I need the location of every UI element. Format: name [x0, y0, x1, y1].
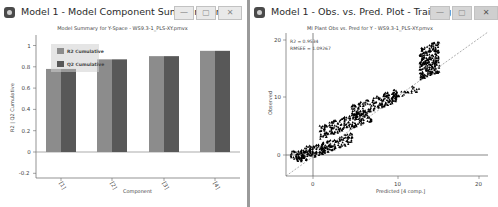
bar-r2-2	[97, 59, 112, 152]
svg-text:0.2: 0.2	[22, 128, 31, 134]
y-axis-title: R2 | Q2 Cumulative	[9, 83, 16, 132]
legend-label-r2: R2 Cumulative	[67, 49, 104, 54]
x-axis-ticks: 0 10 20	[311, 176, 482, 187]
svg-text:20: 20	[274, 37, 281, 43]
x-axis-title: Component	[123, 188, 152, 195]
svg-text:[3]: [3]	[161, 181, 170, 191]
svg-text:[4]: [4]	[212, 181, 221, 191]
svg-text:0: 0	[27, 149, 31, 155]
legend-swatch-q2	[57, 61, 64, 67]
x-axis-title: Predicted [4 comp.]	[376, 188, 425, 195]
bar-r2-1	[46, 69, 61, 152]
bar-r2-4	[200, 51, 215, 152]
bar-q2-2	[112, 59, 127, 152]
svg-text:0.4: 0.4	[22, 106, 31, 112]
model-component-summary-window: Model 1 - Model Component Summary for Y-…	[0, 0, 245, 207]
y-axis-ticks: 10.80.60.40.20-0.2	[19, 43, 36, 177]
scatter-plot[interactable]: 20 10 0 0 10 20 R2 = 0.9534 RMSEE = 1.09…	[250, 0, 490, 207]
legend-swatch-r2	[57, 48, 64, 54]
svg-text:10: 10	[394, 181, 401, 187]
y-axis-ticks: 20 10 0	[274, 37, 286, 158]
data-points	[290, 41, 441, 163]
svg-text:-0.2: -0.2	[19, 170, 30, 176]
bar-q2-3	[164, 56, 179, 152]
svg-text:[1]: [1]	[58, 181, 67, 191]
bar-q2-1	[61, 69, 76, 152]
rmsee-annotation: RMSEE = 1.09267	[290, 46, 331, 51]
svg-text:0: 0	[277, 152, 281, 158]
svg-text:20: 20	[475, 181, 482, 187]
bar-chart[interactable]: 10.80.60.40.20-0.2 [1][2][3][4] R2 Cumul…	[0, 0, 245, 207]
bar-r2-3	[149, 56, 164, 152]
y-axis-title: Observed	[267, 91, 273, 115]
svg-text:0.8: 0.8	[22, 64, 31, 70]
svg-text:1: 1	[27, 43, 31, 49]
svg-text:[2]: [2]	[109, 181, 118, 191]
svg-text:10: 10	[274, 94, 281, 100]
svg-text:0: 0	[311, 181, 315, 187]
bar-q2-4	[215, 51, 230, 152]
obs-vs-pred-window: Model 1 - Obs. vs. Pred. Plot - Training…	[247, 0, 490, 207]
r2-annotation: R2 = 0.9534	[290, 39, 319, 44]
svg-text:0.6: 0.6	[22, 85, 31, 91]
legend-label-q2: Q2 Cumulative	[67, 62, 104, 67]
